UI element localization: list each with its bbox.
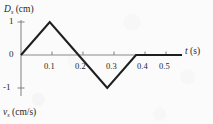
y-axis-unit: (cm): [16, 4, 34, 14]
y-tick-label-minus-1: -1: [3, 83, 11, 92]
physics-figure-panel: Ds (cm) t (s) vs (cm/s) 1 0 -1 0.1 0.2 0…: [0, 0, 213, 124]
lower-axis-unit: (cm/s): [12, 107, 36, 117]
y-axis-symbol: D: [4, 4, 11, 14]
y-tick-label-1: 1: [9, 17, 14, 26]
x-tick-label-0.4: 0.4: [137, 62, 148, 71]
y-tick-label-0: 0: [9, 50, 14, 59]
y-axis-title: Ds (cm): [4, 5, 34, 15]
x-tick-label-0.5: 0.5: [159, 62, 170, 71]
lower-axis-title: vs (cm/s): [3, 108, 36, 118]
x-axis-title: t (s): [185, 47, 200, 57]
x-axis-symbol: t: [185, 46, 188, 56]
x-tick-label-0.1: 0.1: [44, 62, 55, 71]
x-axis-unit: (s): [190, 46, 200, 56]
x-tick-label-0.3: 0.3: [106, 62, 117, 71]
lower-axis-subscript: s: [7, 111, 9, 118]
y-axis-subscript: s: [11, 8, 13, 15]
x-tick-label-0.2: 0.2: [75, 62, 86, 71]
